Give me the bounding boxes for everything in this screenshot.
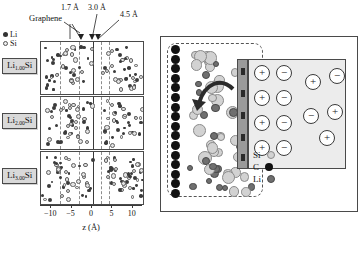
li-atom (82, 120, 86, 124)
si-atom (139, 75, 143, 79)
li-atom (139, 194, 143, 198)
li-atom (63, 131, 67, 135)
composition-tag-c: Li3.00Si (2, 168, 37, 184)
c-atom (171, 122, 180, 131)
si-atom (110, 143, 115, 148)
li-atom (124, 77, 128, 81)
tag-a-suffix: Si (25, 60, 33, 70)
x-tick-label: 5 (109, 209, 113, 218)
graphene-annotation: Graphene (29, 14, 62, 23)
si-atom (67, 158, 71, 162)
legend-item-si-sphere: Si (253, 149, 275, 161)
anion-icon: − (276, 65, 292, 81)
si-atom (55, 73, 59, 77)
tag-a-prefix: Li (7, 60, 15, 70)
si-atom (76, 114, 81, 119)
li-atom (50, 110, 53, 113)
figure-root: Graphene 1.7 Å 3.0 Å 4.5 Å Li Si (0, 0, 362, 255)
si-atom (83, 163, 88, 168)
cation-icon: + (319, 130, 335, 146)
li-atom (82, 107, 86, 111)
si-atom (191, 59, 202, 70)
li-atom (123, 127, 126, 130)
md-panel-c (40, 151, 144, 205)
li-atom (72, 73, 76, 77)
legend-label-si: Si (10, 39, 17, 48)
li-atom (45, 75, 49, 79)
li-atom (104, 141, 107, 144)
li-atom (116, 128, 120, 132)
li-atom (128, 124, 131, 127)
li-atom (189, 183, 196, 190)
li-atom (196, 89, 203, 96)
tag-a-sub: 1.00 (15, 65, 25, 71)
li-atom (53, 80, 56, 83)
x-tick (71, 205, 72, 208)
li-atom (141, 179, 144, 182)
li-atom (81, 194, 84, 197)
si-atom (85, 140, 89, 144)
li-atom (85, 195, 88, 198)
x-tick-label: −5 (66, 209, 75, 218)
si-atom (134, 116, 138, 120)
c-atom (171, 45, 180, 54)
li-atom (48, 79, 51, 82)
x-tick (91, 205, 92, 208)
li-atom (138, 132, 142, 136)
si-atom (111, 173, 116, 178)
distance-4-5-annotation: 4.5 Å (120, 11, 138, 19)
li-atom (51, 61, 55, 65)
si-atom (193, 124, 206, 137)
tag-c-prefix: Li (7, 170, 15, 180)
li-atom (68, 172, 71, 175)
li-atom (82, 46, 86, 50)
si-atom (76, 179, 81, 184)
atom-scatter-a (41, 42, 143, 94)
x-tick (50, 205, 51, 208)
si-atom (119, 87, 124, 92)
x-tick (111, 205, 112, 208)
si-atom (129, 58, 133, 62)
si-atom (89, 61, 94, 66)
si-atom (66, 189, 71, 194)
tag-c-suffix: Si (25, 170, 33, 180)
li-atom (87, 57, 90, 60)
li-atom (66, 181, 70, 185)
si-atom (43, 198, 47, 202)
tag-b-sub: 2.00 (15, 120, 25, 126)
li-atom (134, 73, 137, 76)
si-atom (70, 45, 75, 50)
si-atom (66, 197, 71, 202)
si-atom (74, 126, 78, 130)
c-atom (171, 74, 180, 83)
li-atom (140, 189, 143, 192)
si-atom (73, 57, 79, 63)
li-atom (129, 161, 132, 164)
li-atom (89, 187, 92, 190)
x-tick-label: 10 (128, 209, 136, 218)
li-atom (55, 124, 59, 128)
composition-tag-b: Li2.00Si (2, 113, 37, 129)
distance-3-0-annotation: 3.0 Å (88, 4, 106, 12)
anion-icon: − (276, 90, 292, 106)
tag-b-prefix: Li (7, 115, 15, 125)
li-atom (109, 168, 113, 172)
si-atom (75, 77, 80, 82)
c-atom (171, 93, 180, 102)
c-atom (171, 55, 180, 64)
x-tick-label: −10 (44, 209, 57, 218)
si-atom (139, 116, 143, 120)
si-atom (104, 125, 109, 130)
li-atom (48, 198, 52, 202)
si-atom (106, 117, 109, 120)
li-atom (135, 184, 138, 187)
atom-scatter-b (41, 97, 143, 149)
li-atom (130, 172, 133, 175)
li-atom (59, 176, 62, 179)
si-atom (240, 172, 250, 182)
si-atom (63, 99, 68, 104)
electrode-slab (237, 59, 248, 169)
li-atom (119, 60, 122, 63)
si-atom (46, 170, 52, 176)
li-atom (82, 80, 85, 83)
